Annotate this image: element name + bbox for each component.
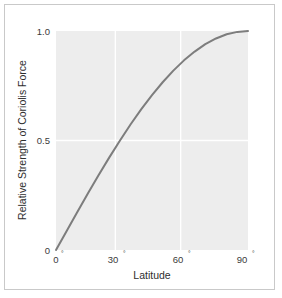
- y-tick-label-1.0: 1.0: [37, 26, 50, 37]
- x-tick-label-90: 90 °: [237, 250, 255, 266]
- x-tick-number-60: 60: [173, 254, 184, 265]
- figure-container: 1.0 0.5 0 0 ° 30 ° 60 ° 90 ° Latitude Re…: [0, 0, 282, 298]
- x-axis-title: Latitude: [133, 269, 171, 281]
- degree-icon: °: [123, 250, 126, 257]
- x-tick-label-60: 60 °: [173, 250, 191, 266]
- x-tick-label-0: 0 °: [53, 250, 64, 266]
- y-axis-title: Relative Strength of Coriolis Force: [16, 60, 28, 220]
- y-tick-label-0.5: 0.5: [37, 135, 50, 146]
- coriolis-force-line-chart: 1.0 0.5 0 0 ° 30 ° 60 ° 90 ° Latitude Re…: [0, 0, 282, 298]
- degree-icon: °: [188, 250, 191, 257]
- x-tick-number-0: 0: [53, 254, 58, 265]
- x-tick-number-90: 90: [237, 254, 248, 265]
- y-tick-label-0: 0: [45, 245, 50, 256]
- x-tick-label-30: 30 °: [108, 250, 126, 266]
- x-tick-number-30: 30: [108, 254, 119, 265]
- degree-icon: °: [61, 250, 64, 257]
- degree-icon: °: [252, 250, 255, 257]
